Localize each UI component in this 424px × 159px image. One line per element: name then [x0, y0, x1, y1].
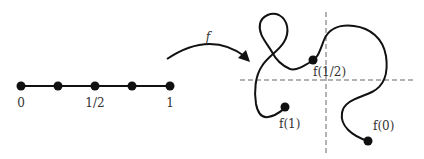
- unit-interval: 0 1/2 1: [17, 82, 175, 111]
- interval-point-0: [17, 82, 26, 91]
- interval-point-1: [166, 82, 175, 91]
- map-label-f: f: [205, 30, 213, 44]
- interval-point-half: [91, 82, 100, 91]
- map-arrow: f: [167, 30, 250, 62]
- label-f-half: f(1/2): [313, 65, 346, 79]
- label-f-zero: f(0): [373, 119, 394, 133]
- point-f-half: [309, 56, 318, 65]
- label-f-one: f(1): [279, 117, 300, 131]
- interval-point-quarter: [54, 82, 63, 91]
- diagram-canvas: 0 1/2 1 f f(1/2) f(1) f(0): [0, 0, 424, 159]
- interval-point-three-quarter: [128, 82, 137, 91]
- label-one: 1: [166, 96, 174, 110]
- label-half: 1/2: [85, 96, 104, 110]
- point-f-one: [281, 103, 290, 112]
- label-zero: 0: [17, 96, 25, 110]
- point-f-zero: [364, 137, 373, 146]
- arrow-curve: [167, 44, 246, 59]
